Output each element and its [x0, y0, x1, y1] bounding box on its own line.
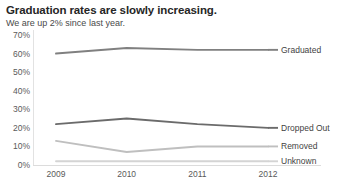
- series-label-unknown: Unknown: [281, 157, 316, 166]
- series-line-removed: [56, 141, 268, 152]
- chart-title: Graduation rates are slowly increasing.: [6, 4, 354, 17]
- series-line-graduated: [56, 48, 268, 54]
- chart-card: Graduation rates are slowly increasing. …: [0, 0, 354, 191]
- chart-subtitle: We are up 2% since last year.: [6, 18, 354, 29]
- series-label-dropped-out: Dropped Out: [281, 123, 330, 132]
- x-axis-tick-label: 2010: [102, 169, 152, 179]
- series-line-dropped-out: [56, 119, 268, 128]
- series-label-removed: Removed: [281, 142, 317, 151]
- x-axis-tick-label: 2011: [172, 169, 222, 179]
- x-axis-tick-label: 2009: [31, 169, 81, 179]
- plot-area: 0%10%20%30%40%50%60%70% 2009201020112012…: [0, 30, 354, 191]
- x-axis-tick-label: 2012: [243, 169, 293, 179]
- series-label-graduated: Graduated: [281, 45, 321, 54]
